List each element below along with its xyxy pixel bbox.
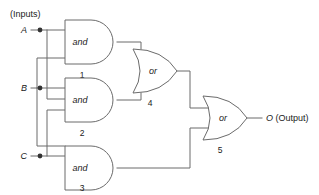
gate-or-4[interactable]: or 4 [133, 49, 177, 108]
wire-gate3-out-to-gate5 [117, 128, 214, 168]
junction-dot-c [38, 154, 43, 159]
logic-circuit-diagram: and 1 and 2 and 3 or 4 or 5 (Inputs) [0, 0, 319, 195]
junction-dot-a [38, 28, 43, 33]
gate-2-label: and [72, 95, 88, 105]
input-label-c: C [21, 151, 28, 161]
wire-b-branch-to-gate1 [37, 58, 65, 88]
output-suffix: (Output) [273, 113, 309, 123]
wire-a-branch-to-gate2 [47, 30, 65, 99]
gate-5-number: 5 [218, 145, 223, 155]
gate-and-1[interactable]: and 1 [65, 20, 113, 80]
wire-c-bus [47, 110, 65, 156]
input-label-a: A [20, 25, 27, 35]
output-label: O (Output) [266, 113, 309, 123]
input-label-b: B [21, 83, 27, 93]
circuit-canvas: and 1 and 2 and 3 or 4 or 5 (Inputs) [0, 0, 319, 195]
junction-dot-b [38, 86, 43, 91]
gate-or-5[interactable]: or 5 [203, 96, 247, 155]
inputs-caption: (Inputs) [10, 9, 41, 19]
gate-5-label: or [219, 113, 228, 123]
gate-3-number: 3 [80, 183, 85, 193]
gate-3-label: and [72, 163, 88, 173]
wire-b-branch-to-gate3 [37, 88, 65, 146]
gate-2-number: 2 [80, 128, 85, 138]
gate-and-3[interactable]: and 3 [65, 146, 113, 193]
gate-1-label: and [72, 37, 88, 47]
gate-4-label: or [149, 66, 158, 76]
output-symbol: O [266, 113, 273, 123]
gate-4-number: 4 [148, 98, 153, 108]
gate-and-2[interactable]: and 2 [65, 78, 113, 138]
